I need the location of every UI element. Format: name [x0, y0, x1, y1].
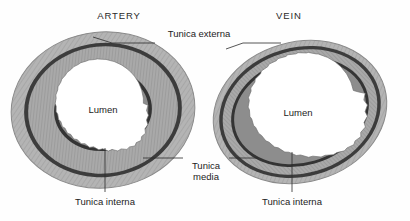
vein-vessel: Lumen — [196, 20, 404, 203]
artery-lumen-label: Lumen — [88, 104, 117, 115]
label-tunica-externa: Tunica externa — [168, 28, 231, 39]
vessel-cross-section-figure: Lumen Lumen ARTERY VEIN Tunica externa T… — [0, 0, 410, 221]
label-tunica-media-line1: Tunica — [192, 160, 221, 171]
leader-tunica-externa-vein-tip — [226, 43, 243, 49]
artery-vessel: Lumen — [3, 23, 202, 197]
vein-title: VEIN — [276, 10, 302, 21]
label-tunica-interna-vein: Tunica interna — [262, 196, 323, 207]
label-tunica-media-line2: media — [193, 171, 220, 182]
label-tunica-interna-artery: Tunica interna — [75, 196, 136, 207]
diagram-canvas: Lumen Lumen ARTERY VEIN Tunica externa T… — [0, 0, 410, 221]
vein-lumen-label: Lumen — [283, 107, 312, 118]
artery-title: ARTERY — [97, 10, 141, 21]
